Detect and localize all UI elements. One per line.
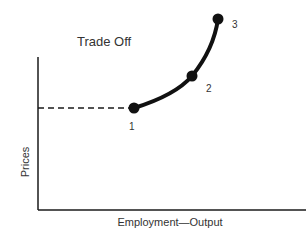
trade-off-diagram: 1 2 3 Trade Off Prices Employment—Output bbox=[0, 0, 306, 239]
point-1-label: 1 bbox=[129, 121, 135, 132]
point-1-marker bbox=[129, 103, 140, 114]
trade-off-curve bbox=[134, 19, 218, 108]
point-3-marker bbox=[213, 14, 224, 25]
point-3-label: 3 bbox=[232, 19, 238, 30]
diagram-title: Trade Off bbox=[77, 34, 132, 49]
x-axis-label: Employment—Output bbox=[117, 216, 222, 228]
y-axis-label: Prices bbox=[19, 146, 31, 177]
point-2-label: 2 bbox=[206, 83, 212, 94]
point-2-marker bbox=[187, 71, 198, 82]
